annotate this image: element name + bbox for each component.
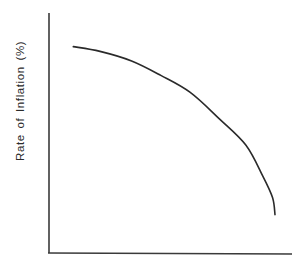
data-curve: [73, 47, 275, 215]
x-axis: [48, 253, 292, 254]
chart-plot: [0, 0, 306, 269]
y-axis-label: Rate of Inflation (%): [14, 41, 26, 161]
